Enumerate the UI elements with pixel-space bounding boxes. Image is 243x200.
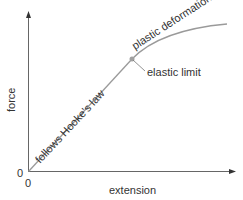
x-axis-arrow-icon	[229, 169, 236, 174]
x-axis-label: extension	[109, 184, 156, 196]
y-axis-arrow-icon	[26, 11, 31, 18]
linear-region-label: follows Hooke's law	[33, 87, 107, 165]
elastic-limit-label: elastic limit	[147, 66, 201, 78]
y-axis-label: force	[5, 88, 17, 112]
origin-y-label: 0	[17, 167, 23, 179]
plastic-region-label: plastic deformation	[130, 0, 214, 52]
force-extension-diagram: elastic limit plastic deformation follow…	[0, 0, 243, 200]
elastic-limit-leader	[133, 60, 145, 71]
origin-x-label: 0	[25, 177, 31, 189]
